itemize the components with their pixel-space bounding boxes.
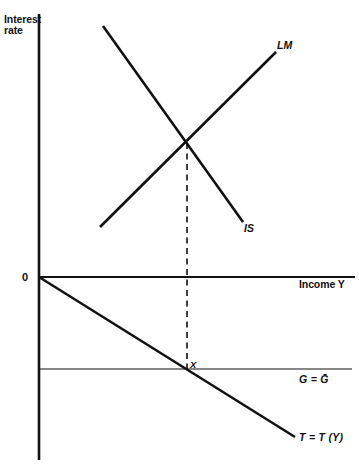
isml-diagram-canvas: Interest rate 0 Income Y LM IS X G = Ḡ … (0, 0, 359, 470)
origin-label: 0 (22, 271, 28, 283)
lower-panel-budget (39, 277, 352, 437)
is-curve (103, 26, 243, 222)
axis-group (39, 14, 355, 460)
tax-function-curve (39, 277, 295, 437)
lm-curve (100, 52, 276, 227)
tax-function-label: T = T (Y) (299, 431, 344, 443)
vertical-axis-label-line2: rate (4, 24, 23, 36)
upper-panel-is-lm (100, 26, 276, 227)
lm-curve-label: LM (277, 39, 293, 51)
isml-diagram-figure: Interest rate 0 Income Y LM IS X G = Ḡ … (0, 0, 359, 470)
is-curve-label: IS (244, 222, 254, 234)
equilibrium-point-label: X (189, 359, 197, 370)
government-spending-label: G = Ḡ (299, 373, 329, 385)
horizontal-axis-label: Income Y (299, 278, 345, 290)
